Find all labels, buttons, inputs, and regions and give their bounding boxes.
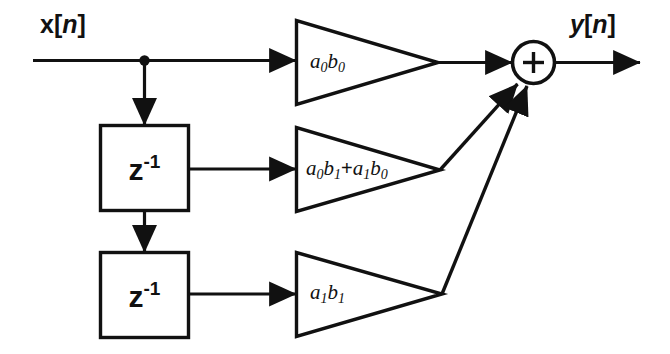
delay-1-base: z	[129, 153, 144, 186]
gain-bottom-sub-a: 1	[321, 291, 328, 306]
gain-middle-sub-b1: 1	[334, 167, 341, 182]
output-label-index: n	[592, 10, 607, 38]
signal-flow-diagram: z-1 z-1 a0b0 a0b1+a1b0 a1b1	[0, 0, 670, 354]
gain-middle-sub-b0: 0	[381, 167, 388, 182]
gain-bottom-term-b: b	[328, 280, 339, 304]
gain-top-sub-a: 0	[321, 60, 328, 75]
gain-middle-term-a0: a	[306, 156, 317, 180]
gain-middle-operator: +	[341, 157, 353, 179]
input-label-var: x	[40, 10, 54, 38]
delay-2-exponent: -1	[144, 278, 161, 299]
delay-2-base: z	[129, 280, 144, 313]
input-label-bracket-close: ]	[78, 10, 86, 38]
output-label-var: y	[568, 10, 585, 38]
gain-bottom-term-a: a	[310, 280, 321, 304]
gain-middle-sub-a1: 1	[363, 167, 370, 182]
gain-top-term-b: b	[328, 49, 339, 73]
input-label-index: n	[62, 10, 77, 38]
gain-middle-term-b0: b	[370, 156, 381, 180]
gain-middle-term-b1: b	[324, 156, 335, 180]
gain-top-sub-b: 0	[338, 60, 345, 75]
output-label: y[n]	[568, 10, 616, 38]
gain-top-term-a: a	[310, 49, 321, 73]
gain-middle-sub-a0: 0	[317, 167, 324, 182]
gain-bottom-sub-b: 1	[338, 291, 345, 306]
diagram-canvas: z-1 z-1 a0b0 a0b1+a1b0 a1b1	[0, 0, 670, 354]
wire-gain-bottom-to-adder	[442, 86, 527, 294]
output-label-bracket-close: ]	[608, 10, 616, 38]
gain-middle-term-a1: a	[353, 156, 364, 180]
delay-1-exponent: -1	[144, 151, 161, 172]
wire-gain-middle-to-adder	[440, 84, 518, 170]
input-label: x[n]	[40, 10, 86, 38]
